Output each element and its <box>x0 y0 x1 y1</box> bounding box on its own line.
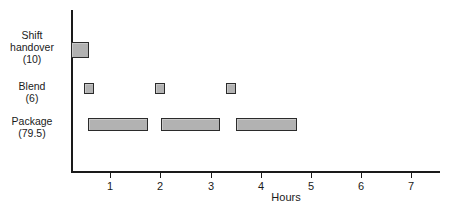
x-tick-1 <box>110 173 111 178</box>
x-tick-2 <box>160 173 161 178</box>
bar-highlight <box>237 119 296 130</box>
bar-highlight <box>85 84 93 93</box>
x-tick-4 <box>261 173 262 178</box>
x-tick-label-1: 1 <box>100 181 120 192</box>
category-value-shift-handover: (10) <box>0 53 65 65</box>
bar-blend-2 <box>155 83 165 94</box>
bar-highlight <box>156 84 164 93</box>
gantt-chart: Shift handover (10) Blend (6) Package (7… <box>0 0 457 210</box>
bar-highlight <box>162 119 219 130</box>
category-name-blend: Blend <box>0 80 65 92</box>
bar-blend-3 <box>226 83 236 94</box>
category-name-package: Package <box>0 115 65 127</box>
x-axis-title: Hours <box>256 191 316 203</box>
y-axis-line <box>71 10 73 172</box>
bar-highlight <box>72 43 88 57</box>
x-tick-7 <box>411 173 412 178</box>
category-value-blend: (6) <box>0 92 65 104</box>
category-label-blend: Blend (6) <box>0 80 65 104</box>
bar-blend-1 <box>84 83 94 94</box>
bar-package-2 <box>161 118 220 131</box>
bar-package-1 <box>88 118 148 131</box>
bar-shift-handover-1 <box>71 42 89 58</box>
x-tick-label-3: 3 <box>201 181 221 192</box>
x-tick-label-6: 6 <box>351 181 371 192</box>
x-tick-5 <box>311 173 312 178</box>
category-value-package: (79.5) <box>0 127 65 139</box>
category-label-shift-handover: Shift handover (10) <box>0 29 65 65</box>
x-tick-3 <box>211 173 212 178</box>
x-tick-label-2: 2 <box>150 181 170 192</box>
x-tick-6 <box>361 173 362 178</box>
x-tick-label-7: 7 <box>401 181 421 192</box>
category-label-package: Package (79.5) <box>0 115 65 139</box>
x-axis-line <box>71 171 440 173</box>
bar-package-3 <box>236 118 297 131</box>
bar-highlight <box>89 119 147 130</box>
bar-highlight <box>227 84 235 93</box>
category-name-shift-handover: Shift handover <box>0 29 65 53</box>
